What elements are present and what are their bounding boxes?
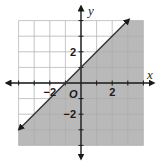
origin-label: O: [69, 88, 78, 100]
x-tick-label: 2: [109, 86, 115, 98]
inequality-graph: x y O −222−2: [0, 0, 160, 166]
x-axis-label: x: [146, 67, 153, 82]
y-axis-label: y: [86, 3, 94, 18]
y-tick-label: 2: [70, 46, 76, 58]
x-tick-label: −2: [44, 86, 57, 98]
y-tick-label: −2: [63, 108, 76, 120]
